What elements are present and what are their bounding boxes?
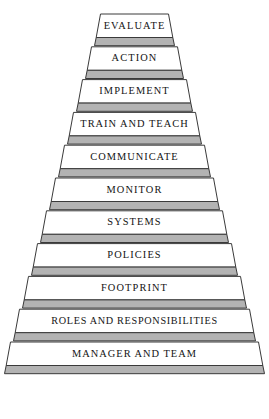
tier-riser <box>50 202 220 210</box>
tier-label: MANAGER AND TEAM <box>72 348 197 359</box>
tier-label: COMMUNICATE <box>90 151 178 162</box>
tier-label: EVALUATE <box>104 20 166 31</box>
tier-label: TRAIN AND TEACH <box>80 118 188 129</box>
pyramid-tier: EVALUATE <box>95 14 175 46</box>
pyramid-tier: ACTION <box>86 47 184 79</box>
pyramid-tier: SYSTEMS <box>41 211 229 243</box>
tier-riser <box>59 169 211 177</box>
tier-label: FOOTPRINT <box>101 282 168 293</box>
tier-riser <box>86 70 184 78</box>
tier-riser <box>68 136 202 144</box>
tier-riser <box>23 300 247 308</box>
pyramid-tier: IMPLEMENT <box>77 80 193 112</box>
tier-riser <box>77 103 193 111</box>
pyramid-tier: POLICIES <box>32 244 238 276</box>
tier-label: ACTION <box>112 52 158 63</box>
pyramid-tier: MONITOR <box>50 178 220 210</box>
tier-riser <box>14 333 256 341</box>
tier-riser <box>5 366 265 374</box>
pyramid-tier: FOOTPRINT <box>23 276 247 308</box>
pyramid-tier: ROLES AND RESPONSIBILITIES <box>14 309 256 341</box>
pyramid-tier: MANAGER AND TEAM <box>5 342 265 374</box>
tier-label: ROLES AND RESPONSIBILITIES <box>51 315 218 326</box>
tier-label: IMPLEMENT <box>99 85 170 96</box>
tier-label: MONITOR <box>107 184 163 195</box>
pyramid-diagram: EVALUATEACTIONIMPLEMENTTRAIN AND TEACHCO… <box>0 0 269 419</box>
tier-label: POLICIES <box>107 249 161 260</box>
tier-label: SYSTEMS <box>107 216 161 227</box>
pyramid-tier-group: EVALUATEACTIONIMPLEMENTTRAIN AND TEACHCO… <box>5 14 265 374</box>
tier-riser <box>41 234 229 242</box>
tier-riser <box>32 267 238 275</box>
pyramid-figure: EVALUATEACTIONIMPLEMENTTRAIN AND TEACHCO… <box>0 0 269 419</box>
tier-riser <box>95 38 175 46</box>
pyramid-tier: COMMUNICATE <box>59 145 211 177</box>
pyramid-tier: TRAIN AND TEACH <box>68 112 202 144</box>
